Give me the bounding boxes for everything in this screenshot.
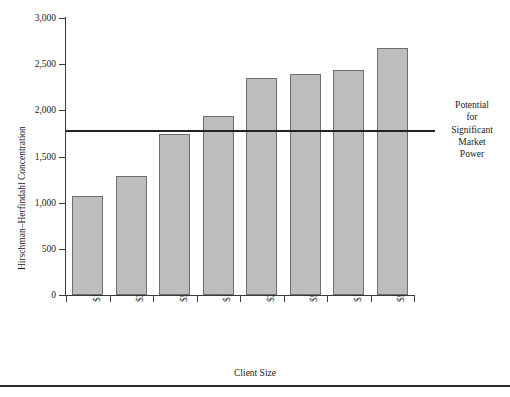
annotation-line: Significant [438, 124, 506, 136]
y-axis-tick [59, 64, 65, 65]
x-axis-tick [197, 296, 198, 302]
annotation-line: Market [438, 136, 506, 148]
x-axis-tick [327, 296, 328, 302]
bar [203, 116, 234, 295]
y-axis-tick [59, 295, 65, 296]
y-axis-tick [59, 203, 65, 204]
bar [159, 134, 190, 295]
y-axis-tick [59, 18, 65, 19]
threshold-annotation-label: PotentialforSignificantMarketPower [438, 99, 506, 160]
figure: 05001,0001,5002,0002,5003,000 $1–$25$25–… [0, 0, 510, 397]
x-axis-tick [240, 296, 241, 302]
x-axis-tick [153, 296, 154, 302]
y-axis-tick-label: 2,500 [20, 59, 56, 69]
bar [72, 196, 103, 295]
bar [116, 176, 147, 295]
x-axis-title: Client Size [0, 368, 510, 378]
x-axis-tick [371, 296, 372, 302]
figure-bottom-rule [0, 385, 510, 387]
annotation-line: Potential [438, 99, 506, 111]
annotation-line: Power [438, 148, 506, 160]
y-axis-tick-label: 0 [20, 290, 56, 300]
bar [246, 78, 277, 295]
x-axis-tick [414, 296, 415, 302]
y-axis-tick [59, 249, 65, 250]
y-axis-tick [59, 110, 65, 111]
bar [333, 70, 364, 295]
y-axis-title: Hirschman–Herfindahl Concentration [17, 126, 27, 270]
y-axis-tick [59, 157, 65, 158]
threshold-line [66, 130, 435, 132]
y-axis-line [65, 17, 66, 296]
y-axis-tick-label: 2,000 [20, 105, 56, 115]
y-axis-tick-label: 3,000 [20, 13, 56, 23]
x-axis-tick [66, 296, 67, 302]
x-axis-tick [110, 296, 111, 302]
annotation-line: for [438, 111, 506, 123]
x-axis-tick [284, 296, 285, 302]
bar [377, 48, 408, 295]
bar [290, 74, 321, 295]
